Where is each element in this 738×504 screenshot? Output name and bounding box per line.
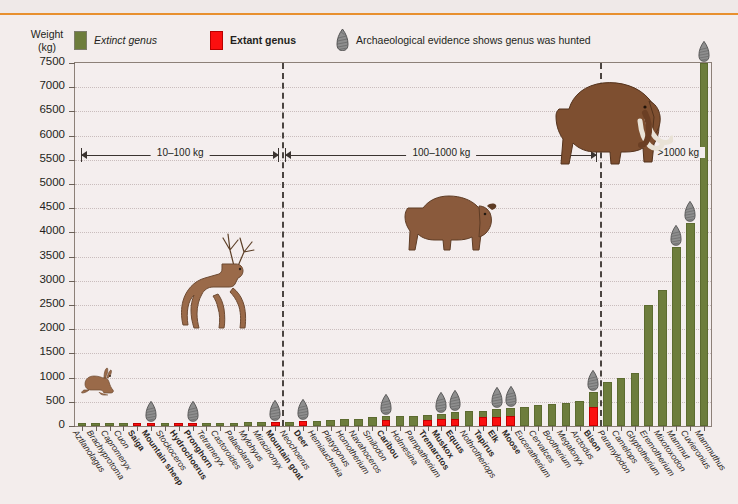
legend-item-extant: Extant genus xyxy=(210,31,296,50)
y-axis-tick xyxy=(69,111,75,112)
gridline xyxy=(75,378,711,379)
y-axis-tick-label: 0 xyxy=(3,418,65,430)
y-axis-tick-label: 2000 xyxy=(3,321,65,333)
spear-point-icon xyxy=(269,400,281,421)
bar-segment-extant xyxy=(492,417,501,426)
bar-holmesina[interactable] xyxy=(396,416,405,426)
spear-point-icon xyxy=(698,41,710,62)
spear-point-icon xyxy=(187,401,199,422)
range-arrow-left xyxy=(285,151,291,159)
bar-navahoceros[interactable] xyxy=(354,419,363,426)
bar-muskox[interactable] xyxy=(437,414,446,426)
bar-paramylodon[interactable] xyxy=(603,382,612,426)
range-arrow-right xyxy=(273,151,279,159)
bar-segment-extinct xyxy=(548,404,557,426)
y-axis-tick-label: 1500 xyxy=(3,345,65,357)
y-axis-tick-label: 7000 xyxy=(3,79,65,91)
y-axis-tick-label: 1000 xyxy=(3,370,65,382)
bar-bootherium[interactable] xyxy=(548,404,557,426)
bar-glyptotherium[interactable] xyxy=(631,373,640,426)
top-orange-rule xyxy=(0,13,738,15)
bar-segment-extinct xyxy=(672,247,681,426)
bar-pampatherium[interactable] xyxy=(409,416,418,426)
bar-megalonyx[interactable] xyxy=(562,403,571,426)
y-axis-tick xyxy=(69,184,75,185)
bar-segment-extinct xyxy=(409,416,418,426)
spear-point-icon xyxy=(145,401,157,422)
bar-segment-extinct xyxy=(520,407,529,426)
y-axis-title: Weight (kg) xyxy=(22,28,72,53)
gridline xyxy=(75,329,711,330)
bar-segment-extant xyxy=(479,417,488,426)
y-axis-tick-label: 4000 xyxy=(3,224,65,236)
range-arrow-left xyxy=(81,151,87,159)
bar-mammuthus[interactable] xyxy=(700,63,709,426)
legend-label-extinct: Extinct genus xyxy=(94,34,157,46)
bar-segment-extinct xyxy=(368,417,377,426)
bar-segment-extinct xyxy=(617,378,626,426)
bar-mixotoxodon[interactable] xyxy=(658,290,667,426)
y-axis-tick xyxy=(69,353,75,354)
chart-page: Extinct genus Extant genus Archaeologica… xyxy=(0,0,738,504)
spear-point-icon xyxy=(297,399,309,420)
legend-item-extinct: Extinct genus xyxy=(74,31,157,50)
mammoth-illustration xyxy=(545,77,673,173)
bar-segment-extinct xyxy=(686,223,695,426)
legend-item-hunted: Archaeological evidence shows genus was … xyxy=(336,29,591,51)
bar-segment-extinct xyxy=(700,63,709,426)
y-axis-title-line2: (kg) xyxy=(22,41,72,54)
bar-caribou[interactable] xyxy=(382,416,391,426)
y-axis-tick-label: 6000 xyxy=(3,128,65,140)
y-axis-tick xyxy=(69,426,75,427)
bar-cuvieronius[interactable] xyxy=(686,223,695,426)
bar-smilodon[interactable] xyxy=(368,417,377,426)
gridline xyxy=(75,402,711,403)
y-axis-tick xyxy=(69,305,75,306)
spear-point-icon xyxy=(435,392,447,413)
bar-eremotherium[interactable] xyxy=(644,305,653,426)
bar-homotherium[interactable] xyxy=(340,419,349,426)
spear-point-icon xyxy=(587,370,599,391)
bar-elk[interactable] xyxy=(492,409,501,426)
y-axis-tick xyxy=(69,87,75,88)
bar-segment-extant xyxy=(451,419,460,426)
plot-area: 7500700065006000550050004500400035003000… xyxy=(74,62,712,427)
bar-segment-extant xyxy=(589,407,598,426)
bar-segment-extinct xyxy=(658,290,667,426)
bar-segment-extinct xyxy=(603,382,612,426)
y-axis-tick xyxy=(69,281,75,282)
bar-segment-extinct xyxy=(631,373,640,426)
bar-mammut[interactable] xyxy=(672,247,681,426)
extant-color-swatch xyxy=(210,31,223,50)
spear-point-icon xyxy=(380,394,392,415)
spear-point-icon xyxy=(449,390,461,411)
bar-tapirus[interactable] xyxy=(479,411,488,426)
spear-point-icon xyxy=(670,225,682,246)
bar-segment-extant xyxy=(506,416,515,426)
bar-moose[interactable] xyxy=(506,408,515,426)
range-annotation-10-100: 10–100 kg xyxy=(81,148,279,162)
y-axis-tick-label: 3500 xyxy=(3,249,65,261)
gridline xyxy=(75,281,711,282)
page-top-band xyxy=(0,0,738,13)
bar-tremarctos[interactable] xyxy=(423,415,432,426)
gridline xyxy=(75,305,711,306)
bar-nothrotheriops[interactable] xyxy=(465,411,474,426)
y-axis-tick xyxy=(69,160,75,161)
bar-equus[interactable] xyxy=(451,412,460,426)
y-axis-tick xyxy=(69,402,75,403)
range-label: 100–1000 kg xyxy=(406,147,476,158)
y-axis-tick-label: 7500 xyxy=(3,55,65,67)
y-axis-tick-label: 6500 xyxy=(3,103,65,115)
y-axis-tick-label: 5500 xyxy=(3,152,65,164)
chart-legend: Extinct genus Extant genus Archaeologica… xyxy=(74,30,591,50)
gridline xyxy=(75,184,711,185)
bar-segment-extinct xyxy=(575,401,584,426)
bar-camelops[interactable] xyxy=(617,378,626,426)
bar-segment-extinct xyxy=(354,419,363,426)
bar-cervalces[interactable] xyxy=(534,405,543,426)
gridline xyxy=(75,353,711,354)
bar-bison[interactable] xyxy=(589,392,598,426)
bar-arctodus[interactable] xyxy=(575,401,584,426)
bar-euceratherium[interactable] xyxy=(520,407,529,426)
